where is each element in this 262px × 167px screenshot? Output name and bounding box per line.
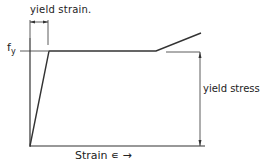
arrow-down-icon [199,140,202,146]
arrow-right-icon [43,21,48,24]
arrow-left-icon [30,21,35,24]
strain-axis-label: Strain ∊ → [75,150,132,161]
stress-strain-curve [30,33,201,146]
yield-strain-label: yield strain. [30,5,91,15]
yield-stress-label: yield stress [203,84,260,94]
fy-label: fy [7,42,16,56]
fy-sub: y [11,47,16,56]
arrow-up-icon [199,52,202,58]
